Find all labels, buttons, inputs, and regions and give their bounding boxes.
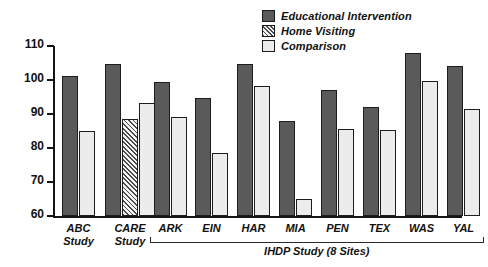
bar-home-care-study	[122, 119, 138, 216]
ihdp-group-label: IHDP Study (8 Sites)	[150, 245, 484, 257]
bar-comp-mia	[296, 199, 312, 216]
legend-label-home-visiting: Home Visiting	[281, 25, 355, 37]
legend-item-home-visiting: Home Visiting	[262, 24, 412, 38]
y-tick-label-80: 80	[31, 139, 44, 153]
bar-comp-tex	[380, 130, 396, 216]
legend-item-educational-intervention: Educational Intervention	[262, 9, 412, 23]
bar-edu-ein	[195, 98, 211, 216]
y-axis-line	[53, 46, 55, 217]
bar-edu-tex	[363, 107, 379, 216]
bar-edu-abc-study	[62, 76, 78, 216]
x-axis-line	[53, 216, 462, 218]
y-tick-60: 60	[47, 215, 54, 217]
bar-comp-ein	[212, 153, 228, 216]
bar-edu-pen	[321, 90, 337, 216]
bar-edu-ark	[154, 82, 170, 216]
bar-comp-yal	[464, 109, 480, 216]
y-tick-70: 70	[47, 181, 54, 183]
bar-edu-mia	[279, 121, 295, 216]
legend-swatch-educational-intervention	[262, 10, 275, 22]
legend-label-educational-intervention: Educational Intervention	[281, 10, 412, 22]
y-tick-110: 110	[47, 45, 54, 47]
bar-comp-abc-study	[79, 131, 95, 216]
ihdp-group-bracket	[150, 237, 484, 243]
bar-comp-pen	[338, 129, 354, 216]
y-tick-label-90: 90	[31, 105, 44, 119]
y-tick-label-70: 70	[31, 173, 44, 187]
legend-swatch-home-visiting	[262, 25, 275, 37]
x-label-yal: YAL	[424, 222, 488, 235]
bar-comp-care-study	[139, 103, 155, 216]
y-tick-80: 80	[47, 147, 54, 149]
bar-comp-was	[422, 81, 438, 216]
y-tick-label-110: 110	[25, 37, 44, 51]
bar-edu-yal	[447, 66, 463, 216]
bar-comp-har	[254, 86, 270, 216]
bar-edu-was	[405, 53, 421, 216]
y-tick-label-100: 100	[24, 71, 44, 85]
y-tick-100: 100	[47, 79, 54, 81]
bar-edu-har	[237, 64, 253, 216]
plot-area: 60708090100110	[54, 46, 462, 216]
y-tick-90: 90	[47, 113, 54, 115]
bar-edu-care-study	[105, 64, 121, 216]
bar-comp-ark	[171, 117, 187, 216]
y-tick-label-60: 60	[31, 207, 44, 221]
